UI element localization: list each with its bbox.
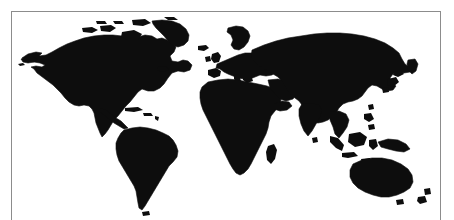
figure-caption — [12, 204, 440, 220]
island-ireland — [205, 56, 211, 62]
figure-root — [0, 0, 454, 220]
world-map-plate — [12, 12, 440, 220]
island-philippines-b — [368, 124, 375, 130]
island-taiwan — [368, 104, 374, 110]
island-nz-north — [424, 188, 431, 195]
world-map-svg — [12, 12, 440, 220]
island-sri-lanka — [312, 137, 318, 143]
island-kyushu — [382, 87, 389, 93]
